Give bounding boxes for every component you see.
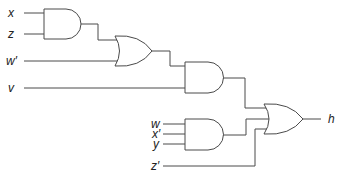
and-gate-1 (44, 9, 81, 39)
label-y: y (152, 137, 160, 151)
label-z: z (7, 27, 14, 41)
label-x: x (7, 6, 15, 20)
or-gate-1 (115, 36, 152, 66)
label-v: v (8, 81, 15, 95)
wire-and2-out (223, 78, 267, 108)
and-gate-3 (185, 119, 223, 150)
label-h: h (328, 112, 335, 126)
circuit-svg: x z w′ v w x′ y z′ h (0, 0, 343, 179)
wire-and3-out (223, 119, 269, 135)
logic-circuit-diagram: x z w′ v w x′ y z′ h (0, 0, 343, 179)
label-w-prime: w′ (6, 54, 18, 68)
wire-or1-out (152, 51, 185, 66)
or-gate-2 (264, 104, 303, 134)
and-gate-2 (185, 62, 224, 93)
wire-and1-out (81, 24, 118, 40)
label-z-prime: z′ (150, 159, 160, 173)
